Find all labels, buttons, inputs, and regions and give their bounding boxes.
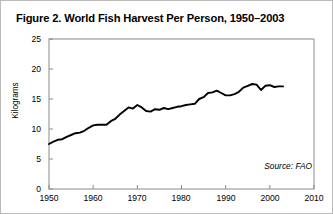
y-tick-label-0: 0: [19, 185, 41, 194]
x-tick-label-1970: 1970: [117, 194, 157, 203]
y-tick-label-15: 15: [19, 95, 41, 104]
x-tick-label-2000: 2000: [250, 194, 290, 203]
figure-container: Figure 2. World Fish Harvest Per Person,…: [0, 0, 333, 214]
line-chart-svg: [1, 1, 333, 214]
x-tick-label-1990: 1990: [206, 194, 246, 203]
x-tick-label-1960: 1960: [73, 194, 113, 203]
source-note: Source: FAO: [264, 161, 312, 171]
x-tick-label-1950: 1950: [29, 194, 69, 203]
x-tick-label-1980: 1980: [161, 194, 201, 203]
chart-plot-area: Kilograms 25 20 15 10 5 0 1950 1960 1970…: [1, 1, 333, 214]
y-tick-label-25: 25: [19, 35, 41, 44]
y-tick-label-20: 20: [19, 65, 41, 74]
y-tick-label-5: 5: [19, 155, 41, 164]
y-tick-label-10: 10: [19, 125, 41, 134]
x-tick-label-2010: 2010: [294, 194, 333, 203]
